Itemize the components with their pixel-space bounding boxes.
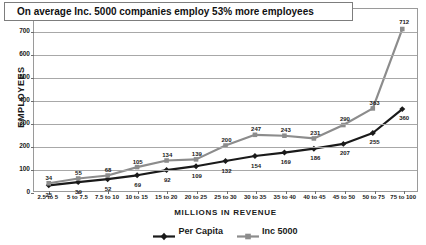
gridline bbox=[34, 78, 417, 79]
data-point-label: 92 bbox=[164, 177, 171, 183]
y-tick-mark bbox=[31, 32, 34, 33]
data-point-marker bbox=[371, 106, 376, 111]
legend-swatch-icon bbox=[237, 227, 259, 236]
data-point-label: 363 bbox=[370, 100, 380, 106]
data-point-label: 243 bbox=[281, 127, 291, 133]
x-tick-label: 75 to 100 bbox=[390, 194, 416, 200]
y-axis-tick-labels: 0100200300400500600700800 bbox=[0, 0, 30, 245]
x-tick-label: 2.5 to 5 bbox=[37, 194, 58, 200]
data-point-label: 68 bbox=[105, 167, 112, 173]
data-point-marker bbox=[312, 136, 317, 141]
data-point-marker bbox=[164, 158, 169, 163]
data-point-marker bbox=[135, 165, 140, 170]
data-point-label: 712 bbox=[399, 19, 409, 25]
data-point-label: 186 bbox=[310, 155, 320, 161]
chart-legend: Per CapitaInc 5000 bbox=[33, 226, 418, 236]
data-point-label: 105 bbox=[133, 159, 143, 165]
data-point-label: 139 bbox=[192, 151, 202, 157]
legend-swatch-icon bbox=[153, 227, 175, 236]
y-tick-label: 500 bbox=[8, 74, 30, 81]
data-point-label: 231 bbox=[310, 130, 320, 136]
data-point-label: 34 bbox=[45, 175, 52, 181]
employees-by-revenue-line-chart: EMPLOYEES 0100200300400500600700800 2539… bbox=[0, 0, 426, 245]
data-point-label: 132 bbox=[221, 168, 231, 174]
y-tick-mark bbox=[31, 147, 34, 148]
data-point-label: 247 bbox=[251, 126, 261, 132]
data-point-label: 55 bbox=[75, 170, 82, 176]
x-axis-title: MILLIONS IN REVENUE bbox=[33, 208, 418, 217]
data-point-marker bbox=[281, 150, 287, 156]
legend-label: Per Capita bbox=[178, 226, 223, 236]
data-point-label: 169 bbox=[281, 159, 291, 165]
data-point-marker bbox=[400, 27, 405, 32]
data-point-label: 52 bbox=[105, 186, 112, 192]
data-point-marker bbox=[76, 176, 81, 181]
data-point-label: 154 bbox=[251, 163, 261, 169]
data-point-label: 290 bbox=[340, 116, 350, 122]
x-axis-tick-labels: 2.5 to 55 to 7.57.5 to 1010 to 1515 to 2… bbox=[33, 194, 418, 206]
x-tick-label: 40 to 45 bbox=[303, 194, 325, 200]
x-tick-label: 50 to 75 bbox=[362, 194, 384, 200]
x-tick-label: 25 to 30 bbox=[214, 194, 236, 200]
x-tick-label: 30 to 35 bbox=[244, 194, 266, 200]
x-tick-label: 10 to 15 bbox=[125, 194, 147, 200]
data-point-marker bbox=[194, 157, 199, 162]
data-point-marker bbox=[340, 141, 346, 147]
data-point-label: 69 bbox=[134, 182, 141, 188]
data-point-label: 200 bbox=[221, 137, 231, 143]
y-tick-label: 600 bbox=[8, 51, 30, 58]
data-point-marker bbox=[105, 173, 110, 178]
data-point-label: 109 bbox=[192, 173, 202, 179]
y-tick-label: 300 bbox=[8, 120, 30, 127]
x-tick-label: 20 to 25 bbox=[185, 194, 207, 200]
x-tick-label: 7.5 to 10 bbox=[95, 194, 119, 200]
data-point-label: 207 bbox=[340, 150, 350, 156]
y-tick-mark bbox=[31, 124, 34, 125]
gridline bbox=[34, 101, 417, 102]
data-point-label: 134 bbox=[162, 152, 172, 158]
data-point-label: 360 bbox=[399, 115, 409, 121]
y-tick-label: 200 bbox=[8, 143, 30, 150]
plot-area: 2539526992109132154169186207255360345568… bbox=[33, 8, 418, 192]
legend-item-inc-5000[interactable]: Inc 5000 bbox=[237, 226, 298, 236]
y-tick-mark bbox=[31, 78, 34, 79]
data-point-marker bbox=[134, 172, 140, 178]
data-point-label: 255 bbox=[370, 139, 380, 145]
y-tick-mark bbox=[31, 101, 34, 102]
data-point-marker bbox=[193, 163, 199, 169]
y-tick-label: 0 bbox=[8, 189, 30, 196]
data-point-marker bbox=[253, 133, 258, 138]
y-tick-label: 400 bbox=[8, 97, 30, 104]
x-tick-label: 5 to 7.5 bbox=[67, 194, 88, 200]
x-tick-label: 45 to 50 bbox=[333, 194, 355, 200]
y-tick-label: 100 bbox=[8, 166, 30, 173]
chart-title: On average Inc. 5000 companies employ 53… bbox=[4, 2, 353, 21]
legend-label: Inc 5000 bbox=[262, 226, 298, 236]
y-tick-mark bbox=[31, 170, 34, 171]
gridline bbox=[34, 147, 417, 148]
series-lines bbox=[34, 9, 417, 191]
x-tick-label: 35 to 40 bbox=[274, 194, 296, 200]
gridline bbox=[34, 32, 417, 33]
data-point-marker bbox=[282, 133, 287, 138]
data-point-marker bbox=[252, 153, 258, 159]
legend-item-per-capita[interactable]: Per Capita bbox=[153, 226, 223, 236]
x-tick-label: 15 to 20 bbox=[155, 194, 177, 200]
gridline bbox=[34, 55, 417, 56]
y-tick-label: 700 bbox=[8, 28, 30, 35]
gridline bbox=[34, 124, 417, 125]
data-point-marker bbox=[223, 158, 229, 164]
y-tick-mark bbox=[31, 55, 34, 56]
data-point-marker bbox=[46, 181, 51, 186]
